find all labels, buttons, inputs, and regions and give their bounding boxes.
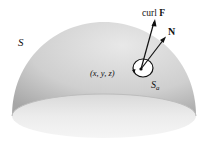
point-label: (x, y, z) xyxy=(90,68,115,78)
surface-label: S xyxy=(18,36,24,48)
curl-f-arrowhead-icon xyxy=(152,19,157,27)
curl-f-label: curl F xyxy=(142,8,165,18)
hemisphere-diagram: S curl F N (x, y, z) Sa xyxy=(0,0,208,156)
normal-label: N xyxy=(168,26,176,37)
